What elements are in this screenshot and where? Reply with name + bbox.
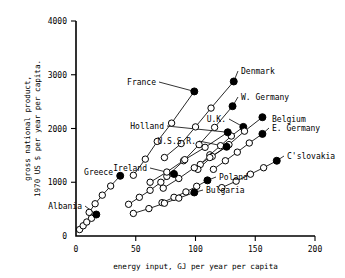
data-point: [130, 172, 136, 178]
data-point-final: [191, 88, 198, 95]
data-point: [207, 154, 213, 160]
data-point-final: [204, 177, 211, 184]
data-point: [146, 205, 152, 211]
data-point: [222, 158, 228, 164]
y-tick-label: 4000: [48, 17, 67, 26]
series-label: U.S.S.R.: [157, 137, 196, 146]
data-point-final: [224, 129, 231, 136]
trajectory-layer: [80, 82, 277, 230]
data-point: [125, 201, 131, 207]
data-point: [246, 140, 252, 146]
data-point-final: [223, 143, 230, 150]
series-label: Greece: [84, 168, 113, 177]
y-tick-label: 1000: [48, 178, 67, 187]
data-point: [147, 187, 153, 193]
data-point-final: [259, 130, 266, 137]
data-point: [158, 179, 164, 185]
series-label: France: [127, 78, 156, 87]
series-label: Denmark: [241, 67, 275, 76]
data-point: [161, 154, 167, 160]
y-tick-label: 2000: [48, 125, 67, 134]
data-point-final: [273, 157, 280, 164]
data-point: [241, 128, 247, 134]
data-point: [191, 165, 197, 171]
series-label: E. Germany: [272, 124, 320, 133]
y-axis-title-1: gross national product,: [23, 76, 32, 181]
data-point: [260, 165, 266, 171]
y-tick-label: 0: [62, 232, 67, 241]
chart-canvas: DenmarkFranceW. GermanyU.K.BelgiumHollan…: [0, 0, 345, 278]
data-point: [202, 144, 208, 150]
data-point: [99, 192, 105, 198]
data-point: [182, 156, 188, 162]
x-tick-label: 0: [74, 245, 79, 254]
data-point: [247, 171, 253, 177]
series-label: Holland: [130, 122, 164, 131]
x-tick-label: 50: [131, 245, 141, 254]
data-point: [192, 124, 198, 130]
y-tick-label: 3000: [48, 71, 67, 80]
x-tick-label: 200: [308, 245, 323, 254]
series-label: C'slovakia: [287, 152, 335, 161]
series-label: Bulgaria: [206, 186, 245, 195]
x-axis-title: energy input, GJ per year per capita: [113, 262, 278, 271]
x-tick-label: 100: [188, 245, 203, 254]
data-point: [142, 156, 148, 162]
data-point-final: [93, 211, 100, 218]
series-label: W. Germany: [241, 93, 289, 102]
data-point: [183, 189, 189, 195]
data-point: [130, 210, 136, 216]
label-leader: [159, 82, 194, 91]
data-point-final: [230, 78, 237, 85]
data-point-final: [259, 114, 266, 121]
data-point: [208, 105, 214, 111]
data-point: [211, 124, 217, 130]
data-point: [107, 183, 113, 189]
data-point: [168, 120, 174, 126]
data-point: [176, 195, 182, 201]
data-point-final: [229, 103, 236, 110]
data-point: [147, 179, 153, 185]
data-point: [161, 200, 167, 206]
series-label: Belgium: [272, 115, 306, 124]
scatter-chart: DenmarkFranceW. GermanyU.K.BelgiumHollan…: [0, 0, 345, 278]
data-point: [92, 201, 98, 207]
x-tick-label: 150: [248, 245, 263, 254]
series-label: U.K.: [207, 115, 226, 124]
data-point-final: [117, 172, 124, 179]
data-point-final: [191, 189, 198, 196]
series-label: Poland: [219, 173, 248, 182]
series-label: Albania: [48, 202, 82, 211]
data-point: [234, 149, 240, 155]
series-label: Ireland: [113, 164, 147, 173]
data-point-final: [170, 170, 177, 177]
data-point: [136, 194, 142, 200]
data-point: [210, 166, 216, 172]
data-point: [196, 141, 202, 147]
data-point: [164, 169, 170, 175]
y-axis-title-2: 1970 US $ per year per capita.: [33, 60, 42, 197]
